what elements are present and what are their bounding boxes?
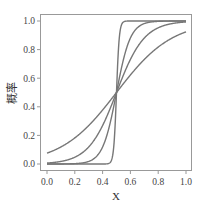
y-tick-label: 0.6: [23, 74, 35, 84]
x-axis-ticks: 0.00.20.40.60.81.0: [41, 171, 192, 188]
x-tick-label: 0.4: [97, 177, 109, 187]
sigmoid-chart: 0.00.20.40.60.81.0 0.00.20.40.60.81.0 X …: [0, 0, 205, 209]
curves: [47, 21, 186, 164]
x-axis-label: X: [112, 190, 120, 202]
x-tick-label: 0.6: [124, 177, 136, 187]
y-tick-label: 0.2: [23, 131, 35, 141]
y-tick-label: 0.0: [23, 159, 35, 169]
x-tick-label: 0.8: [152, 177, 164, 187]
x-tick-label: 0.0: [41, 177, 53, 187]
y-tick-label: 0.4: [23, 102, 35, 112]
x-tick-label: 1.0: [180, 177, 192, 187]
y-axis-ticks: 0.00.20.40.60.81.0: [23, 16, 40, 169]
y-tick-label: 1.0: [23, 16, 35, 26]
y-tick-label: 0.8: [23, 45, 35, 55]
x-tick-label: 0.2: [69, 177, 81, 187]
y-axis-label: 概率: [5, 82, 18, 104]
